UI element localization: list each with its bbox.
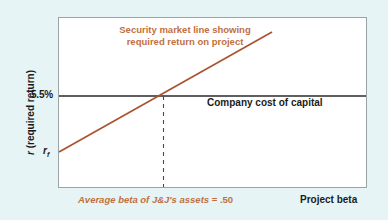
y-axis-title: r (required return) [25, 61, 36, 165]
sml-annotation-line-1: Security market line showing [119, 24, 250, 35]
company-cost-of-capital-label: Company cost of capital [207, 97, 323, 108]
x-axis-title: Project beta [300, 194, 357, 205]
average-beta-caption-italic: Average beta of J&J's assets [78, 194, 209, 205]
sml-annotation-line-2: required return on project [127, 36, 244, 47]
security-market-line-figure: 5.5% r (required return) rf Security mar… [0, 0, 388, 220]
security-market-line-annotation: Security market line showingrequired ret… [110, 24, 260, 48]
risk-free-rate-label: rf [43, 145, 49, 158]
y-axis-title-symbol: r [25, 151, 36, 155]
average-beta-caption: Average beta of J&J's assets = .50 [78, 194, 233, 205]
average-beta-caption-value: = .50 [209, 194, 233, 205]
y-axis-title-text: (required return) [25, 70, 36, 151]
risk-free-rate-subscript: f [47, 151, 49, 158]
